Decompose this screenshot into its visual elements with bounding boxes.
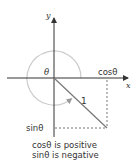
caption-line-cos: cosθ is positive: [32, 140, 99, 150]
radius-label: 1: [81, 96, 87, 106]
y-axis-label: y: [45, 11, 51, 20]
theta-label: θ: [44, 67, 49, 77]
caption: cosθ is positive sinθ is negative: [32, 140, 99, 160]
cos-label: cosθ: [98, 67, 118, 77]
sin-label: sinθ: [26, 123, 43, 133]
x-axis-label: x: [126, 81, 131, 90]
caption-line-sin: sinθ is negative: [32, 150, 99, 160]
